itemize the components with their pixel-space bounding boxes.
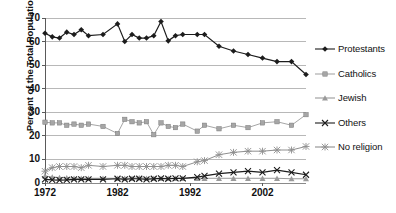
data-point (144, 120, 148, 124)
data-point (50, 121, 54, 125)
legend-label-jewish: Jewish (338, 92, 366, 103)
data-point (85, 162, 92, 169)
data-point (260, 121, 264, 125)
data-point (275, 120, 279, 124)
data-point (57, 121, 61, 125)
data-point (158, 163, 165, 170)
legend-marker-protestants (314, 42, 336, 56)
data-point (49, 164, 56, 171)
series-no-religion (42, 143, 310, 175)
data-point (136, 163, 143, 170)
data-point (322, 144, 329, 151)
data-point (152, 132, 156, 136)
legend: Protestants Catholics Jewish Others No r… (314, 42, 396, 165)
data-point (42, 31, 48, 37)
data-point (130, 120, 134, 124)
data-point (217, 127, 221, 131)
data-point (136, 35, 142, 41)
legend-marker-others (314, 116, 336, 130)
legend-label-protestants: Protestants (338, 43, 385, 54)
data-point (288, 147, 295, 154)
data-point (78, 164, 85, 171)
data-point (137, 121, 141, 125)
data-point (65, 123, 69, 127)
data-point (151, 33, 157, 39)
data-point (231, 123, 235, 127)
data-point (86, 122, 90, 126)
data-point (323, 71, 327, 75)
legend-marker-catholics (314, 67, 336, 81)
data-point (115, 131, 119, 135)
data-point (43, 120, 47, 124)
series-protestants (42, 19, 309, 78)
legend-label-no-religion: No religion (338, 141, 382, 152)
legend-item-others[interactable]: Others (314, 116, 396, 141)
data-point (274, 147, 281, 154)
data-point (158, 19, 164, 25)
data-point (72, 122, 76, 126)
legend-label-others: Others (338, 117, 366, 128)
data-point (181, 122, 185, 126)
data-point (179, 163, 186, 170)
data-point (172, 162, 179, 169)
data-point (144, 35, 150, 41)
data-point (289, 123, 293, 127)
series-catholics (43, 112, 308, 136)
data-point (195, 129, 199, 133)
data-point (274, 59, 280, 65)
data-point (159, 121, 163, 125)
data-point (100, 163, 107, 170)
data-point (303, 143, 310, 150)
data-point (71, 163, 78, 170)
legend-item-catholics[interactable]: Catholics (314, 67, 396, 92)
legend-item-jewish[interactable]: Jewish (314, 91, 396, 116)
legend-item-protestants[interactable]: Protestants (314, 42, 396, 67)
data-point (202, 123, 206, 127)
series-line (45, 115, 306, 135)
data-point (201, 157, 208, 164)
data-point (129, 163, 136, 170)
data-point (56, 163, 63, 170)
data-point (216, 151, 223, 158)
data-point (245, 148, 252, 155)
data-point (231, 48, 237, 54)
data-point (322, 46, 328, 52)
legend-marker-jewish (314, 91, 336, 105)
data-point (259, 148, 266, 155)
data-point (230, 149, 237, 156)
data-point (246, 125, 250, 129)
data-point (194, 32, 200, 38)
chart-container: Percent of the Total Population 01020304… (0, 0, 396, 213)
legend-marker-no-religion (314, 140, 336, 154)
data-point (165, 162, 172, 169)
data-point (143, 163, 150, 170)
data-point (260, 55, 266, 61)
legend-item-no-religion[interactable]: No religion (314, 140, 396, 165)
data-point (101, 124, 105, 128)
data-point (63, 163, 70, 170)
data-point (166, 124, 170, 128)
series-line (45, 22, 306, 75)
data-point (194, 158, 201, 165)
data-point (42, 168, 49, 175)
data-point (123, 117, 127, 121)
data-point (79, 123, 83, 127)
data-point (173, 125, 177, 129)
legend-label-catholics: Catholics (338, 68, 376, 79)
data-point (245, 52, 251, 58)
data-point (150, 163, 157, 170)
data-point (304, 112, 308, 116)
data-point (121, 162, 128, 169)
data-point (114, 162, 121, 169)
data-point (49, 34, 55, 40)
data-point (180, 32, 186, 38)
